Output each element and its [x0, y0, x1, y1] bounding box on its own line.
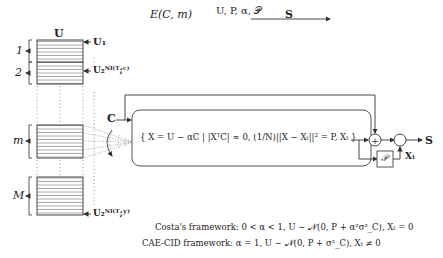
caption-costa: Costa's framework: 0 < α < 1, U ∼ 𝒩(0, P… — [155, 222, 413, 233]
codebook-block-M — [37, 177, 83, 215]
bin-label-1: 1 — [16, 44, 23, 57]
rotation-arrow — [107, 130, 112, 156]
codeword-pointers — [84, 42, 91, 214]
codebook-block-top — [37, 40, 83, 84]
power-to-node-line — [393, 147, 400, 159]
bin-brackets — [26, 40, 32, 215]
feedback-label: Xₜ — [405, 151, 415, 161]
selection-cone — [83, 125, 133, 158]
codebook-block-m — [37, 125, 83, 158]
bin-label-M: M — [13, 189, 24, 202]
first-codeword-label: U₁ — [93, 36, 106, 47]
combiner-node — [394, 134, 406, 146]
bin-label-2: 2 — [15, 66, 22, 79]
mid-codeword-label: U₂ᴺᴵ⁽ᵁ;ᶜ⁾ — [93, 65, 129, 75]
adder-plus-sign: + — [371, 136, 379, 146]
caption-cae-cid: CAE-CID framework: α = 1, U ∼ 𝒩(0, P + σ… — [142, 238, 381, 249]
last-codeword-label: U₂ᴺᴵ⁽ᵁ;ʸ⁾ — [93, 208, 130, 218]
codebook-header: U — [54, 27, 64, 40]
selection-set-equation: { X = U − αC | |XᵀC| ≈ 0, (1/N)||X − Xₜ|… — [140, 132, 357, 142]
diagram-canvas: + — [0, 0, 443, 258]
state-input-label: C — [107, 112, 116, 125]
output-label: S — [425, 134, 433, 147]
bin-label-m: m — [13, 134, 23, 147]
power-block-label: 𝒫 — [381, 153, 387, 164]
